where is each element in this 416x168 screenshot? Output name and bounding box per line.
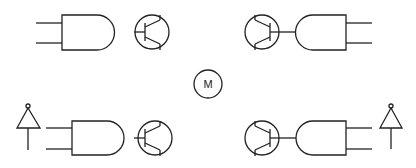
emitter-lead [255,143,270,150]
motor-label: M [203,78,212,90]
and-gate-bottom-right [296,121,372,155]
and-gate-body [72,121,124,155]
supply-symbol-left [17,104,40,150]
transistor-bottom-right [245,121,296,156]
and-gate-body [296,15,347,50]
collector-lead [255,126,270,133]
emitter-lead [145,143,160,150]
triangle-icon [17,108,40,128]
emitter-lead [255,37,270,44]
and-gate-body [296,121,346,155]
transistor-top-left [134,15,169,50]
emitter-lead [145,37,160,44]
schematic-canvas: M [0,0,416,168]
transistor-top-right [245,15,296,50]
transistor-bottom-left [134,121,172,156]
collector-lead [145,20,160,27]
collector-lead [255,20,270,27]
supply-symbol-right [380,104,402,149]
collector-lead [145,126,160,133]
triangle-icon [380,108,402,128]
and-gate-top-right [296,15,373,50]
and-gate-bottom-left [46,121,124,155]
and-gate-top-left [36,15,115,50]
and-gate-body [62,15,115,50]
motor: M [194,70,222,98]
